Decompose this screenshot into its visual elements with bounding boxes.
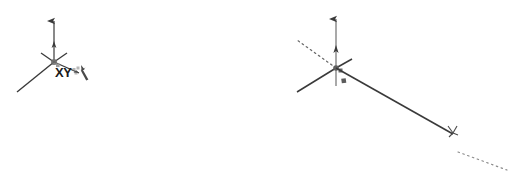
cursor-relation-glyph xyxy=(73,67,80,75)
left-axis-arrow xyxy=(17,62,54,92)
left-axis-arrow xyxy=(297,68,336,92)
endpoint-extension-dotted xyxy=(458,152,507,170)
figure-start-graphics xyxy=(0,0,257,180)
construction-line-dotted xyxy=(297,40,336,68)
figure-sketch-line-drawn[interactable]: 97.6, 0° XY xyxy=(257,0,514,180)
origin-xy-label: XY xyxy=(55,66,72,79)
sketch-canvas[interactable]: XY xyxy=(0,0,514,180)
vertical-axis-arrow xyxy=(52,21,57,62)
figure-drawn-graphics xyxy=(257,0,514,180)
cursor-pencil-glyph xyxy=(81,65,89,80)
midpoint-square-marker xyxy=(341,78,346,83)
vertical-axis-arrow xyxy=(333,19,338,86)
sketched-line[interactable] xyxy=(336,68,453,134)
line-tool-cursor-icon[interactable] xyxy=(72,63,98,81)
figure-sketch-start[interactable]: XY xyxy=(0,0,257,180)
